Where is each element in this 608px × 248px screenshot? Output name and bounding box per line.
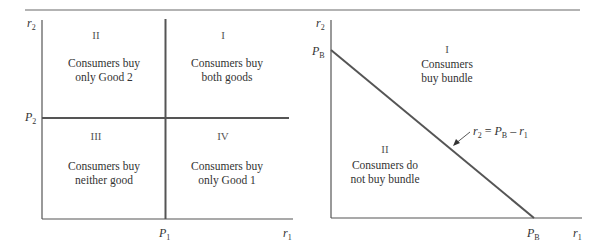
region-text-line1: Consumers buy bbox=[50, 159, 158, 173]
arrowhead-icon bbox=[453, 139, 460, 146]
region-text-line1: Consumers buy bbox=[172, 159, 282, 173]
region-text-line1: Consumers bbox=[407, 57, 487, 71]
left-y-axis-label: r2 bbox=[27, 16, 36, 35]
region-numeral: II bbox=[378, 142, 392, 156]
right-pb-x-label: PB bbox=[527, 226, 540, 245]
region-text-line1: Consumers buy bbox=[172, 56, 282, 70]
region-numeral: III bbox=[86, 129, 106, 143]
region-text-line1: Consumers buy bbox=[50, 56, 158, 70]
region-numeral: I bbox=[441, 42, 453, 56]
region-numeral: IV bbox=[212, 129, 234, 143]
region-text-line2: only Good 2 bbox=[50, 70, 158, 84]
right-pb-y-label: PB bbox=[312, 44, 325, 63]
region-text-line2: buy bundle bbox=[407, 71, 487, 85]
region-text-line2: neither good bbox=[50, 173, 158, 187]
region-text-line2: only Good 1 bbox=[172, 173, 282, 187]
region-text-line2: both goods bbox=[172, 70, 282, 84]
left-p1-label: P1 bbox=[159, 226, 170, 245]
left-x-axis-label: r1 bbox=[283, 226, 292, 245]
region-numeral: II bbox=[88, 28, 104, 42]
region-text-line1: Consumers do bbox=[340, 158, 430, 172]
right-y-axis-label: r2 bbox=[316, 16, 325, 35]
right-x-axis-label: r1 bbox=[573, 226, 582, 245]
region-text-line2: not buy bundle bbox=[340, 172, 430, 186]
left-p2-label: P2 bbox=[25, 110, 36, 129]
region-numeral: I bbox=[215, 28, 231, 42]
bundle-line-equation: r2 = PB – r1 bbox=[473, 124, 528, 143]
